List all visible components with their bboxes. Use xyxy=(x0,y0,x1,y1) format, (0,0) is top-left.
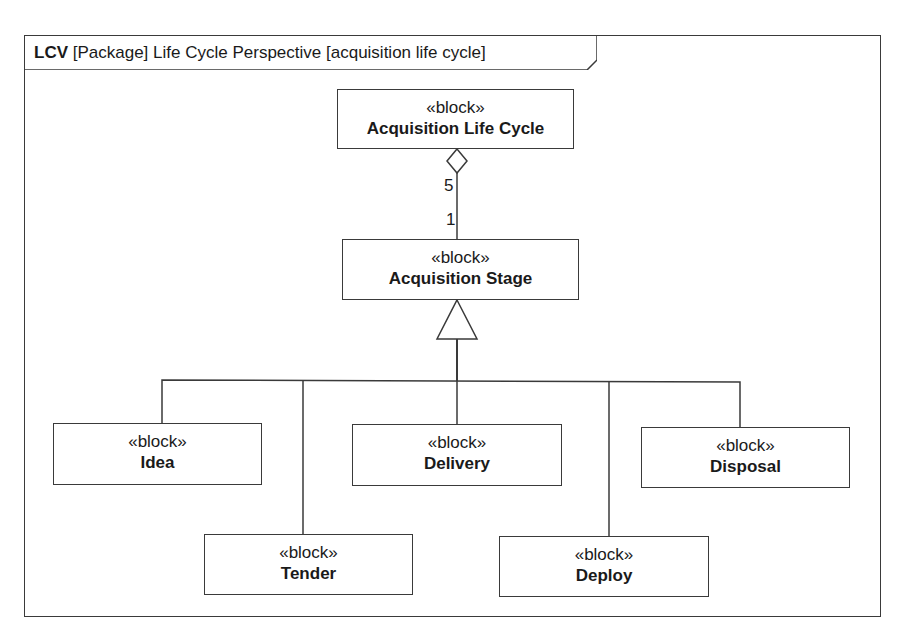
aggregation-diamond-icon xyxy=(447,149,467,173)
block-stereotype: «block» xyxy=(338,98,573,118)
generalization-triangle-icon xyxy=(437,300,477,339)
block-disposal[interactable]: «block» Disposal xyxy=(641,427,850,488)
block-tender[interactable]: «block» Tender xyxy=(204,534,413,595)
block-stereotype: «block» xyxy=(642,436,849,456)
block-stereotype: «block» xyxy=(500,545,708,565)
block-idea[interactable]: «block» Idea xyxy=(53,423,262,485)
block-name: Tender xyxy=(205,563,412,585)
block-acquisition-stage[interactable]: «block» Acquisition Stage xyxy=(342,239,579,300)
block-stereotype: «block» xyxy=(54,432,261,452)
block-deploy[interactable]: «block» Deploy xyxy=(499,536,709,597)
block-acquisition-life-cycle[interactable]: «block» Acquisition Life Cycle xyxy=(337,89,574,149)
block-name: Disposal xyxy=(642,456,849,478)
block-name: Acquisition Life Cycle xyxy=(338,118,573,140)
whole-multiplicity: 5 xyxy=(444,176,453,196)
block-name: Acquisition Stage xyxy=(343,268,578,290)
block-stereotype: «block» xyxy=(205,543,412,563)
block-name: Delivery xyxy=(353,453,561,475)
block-stereotype: «block» xyxy=(343,248,578,268)
block-name: Idea xyxy=(54,452,261,474)
block-delivery[interactable]: «block» Delivery xyxy=(352,424,562,486)
part-multiplicity: 1 xyxy=(446,210,455,230)
generalization-bus[interactable] xyxy=(162,380,740,427)
block-stereotype: «block» xyxy=(353,433,561,453)
block-name: Deploy xyxy=(500,565,708,587)
